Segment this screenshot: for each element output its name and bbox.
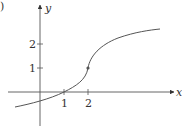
y-axis-label: y xyxy=(44,2,52,15)
corner-mark: ) xyxy=(0,0,4,13)
x-tick-label-2: 2 xyxy=(85,97,92,110)
x-tick-label-1: 1 xyxy=(61,97,68,110)
vertical-tangent-point xyxy=(86,66,89,69)
graph: ) y x 1 2 1 2 xyxy=(0,0,182,131)
x-axis-label: x xyxy=(176,86,182,99)
y-tick-label-2: 2 xyxy=(29,38,36,51)
y-tick-label-1: 1 xyxy=(29,62,36,75)
